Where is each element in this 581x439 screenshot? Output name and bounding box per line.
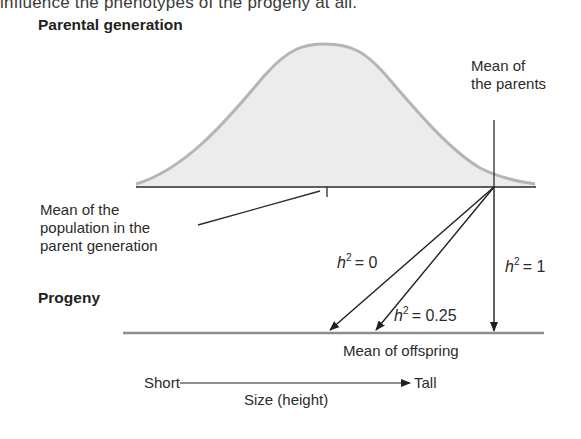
h2-1-label: h2 = 1	[505, 256, 545, 276]
h2-0-label: h2 = 0	[337, 252, 377, 272]
h-symbol: h	[337, 254, 346, 271]
exponent: 2	[403, 305, 409, 316]
axis-short-label: Short	[144, 374, 180, 392]
parental-generation-heading: Parental generation	[38, 16, 183, 34]
population-mean-line-3: parent generation	[40, 237, 158, 255]
axis-tall-label: Tall	[414, 374, 437, 392]
mean-of-parents-line-1: Mean of	[471, 57, 546, 75]
h2-0-value: = 0	[355, 254, 378, 271]
h2-025-label: h2 = 0.25	[394, 305, 457, 325]
mean-of-parents-label: Mean of the parents	[471, 57, 546, 93]
progeny-heading: Progeny	[38, 289, 100, 307]
h-symbol: h	[505, 258, 514, 275]
population-mean-line-2: population in the	[40, 219, 158, 237]
population-mean-line-1: Mean of the	[40, 201, 158, 219]
h2-025-value: = 0.25	[412, 307, 457, 324]
h-symbol: h	[394, 307, 403, 324]
axis-title: Size (height)	[244, 391, 328, 409]
exponent: 2	[346, 252, 352, 263]
mean-of-offspring-label: Mean of offspring	[343, 342, 459, 360]
population-mean-label: Mean of the population in the parent gen…	[40, 201, 158, 255]
exponent: 2	[514, 256, 520, 267]
mean-of-parents-line-2: the parents	[471, 75, 546, 93]
population-mean-leader	[198, 191, 320, 225]
h2-1-value: = 1	[523, 258, 546, 275]
